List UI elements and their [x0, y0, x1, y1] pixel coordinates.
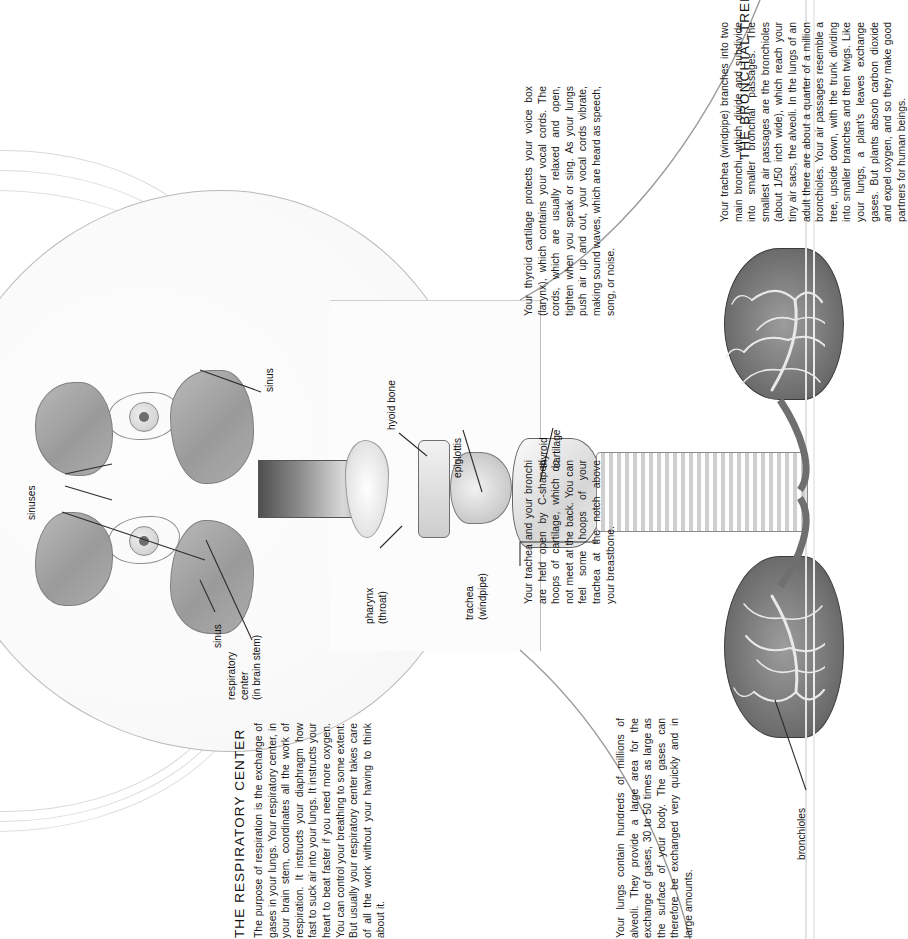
label-bronchioles: bronchioles	[796, 808, 808, 860]
section-body-trachea-cartilage: Your trachea and your bronchi are held o…	[522, 460, 617, 604]
section-body-bronchial-tree: Your trachea (windpipe) branches into tw…	[718, 22, 908, 222]
label-line: thyroid	[538, 396, 551, 468]
label-line: trachea	[464, 536, 477, 620]
lung-shape	[724, 556, 844, 738]
sinus-shape	[35, 382, 113, 476]
iris	[129, 526, 159, 556]
label-line: respiratory	[226, 590, 239, 700]
hyoid-bone-shape	[418, 440, 450, 538]
label-trachea: trachea (windpipe)	[464, 536, 489, 620]
trachea-shape	[596, 452, 808, 532]
section-heading-respiratory-center: THE RESPIRATORY CENTER	[232, 729, 247, 938]
label-sinus-lower: sinus	[212, 624, 224, 648]
label-line: cartilage	[551, 396, 564, 468]
section-body-voice-box: Your thyroid cartilage protects your voi…	[522, 86, 617, 316]
section-body-alveoli: Your lungs contain hundreds of millions …	[614, 718, 696, 938]
label-hyoid-bone: hyoid bone	[386, 380, 398, 430]
lung-shape	[724, 248, 844, 400]
label-line: (in brain stem)	[251, 590, 264, 700]
label-sinus-upper: sinus	[264, 368, 276, 392]
label-pharynx: pharynx (throat)	[364, 544, 389, 624]
label-line: pharynx	[364, 544, 377, 624]
label-respiratory-center: respiratory center (in brain stem)	[226, 590, 264, 700]
label-epiglottis: epiglottis	[452, 438, 464, 478]
label-thyroid-cartilage: thyroid cartilage	[538, 396, 563, 468]
iris	[129, 402, 159, 432]
section-body-respiratory-center: The purpose of respiration is the exchan…	[252, 723, 388, 938]
label-line: center	[239, 590, 252, 700]
pupil	[139, 412, 149, 422]
label-line: (throat)	[377, 544, 390, 624]
label-line: (windpipe)	[477, 536, 490, 620]
label-sinuses: sinuses	[26, 485, 38, 520]
pupil	[139, 536, 149, 546]
sinus-shape	[170, 370, 254, 484]
